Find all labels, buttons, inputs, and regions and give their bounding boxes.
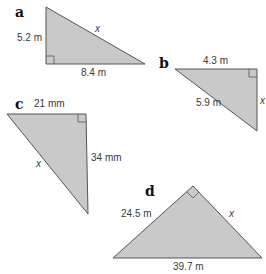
label-d-side2: 39.7 m: [173, 262, 204, 272]
label-letter-d: d: [145, 184, 155, 198]
label-b-side2: 5.9 m: [196, 98, 221, 108]
label-letter-b: b: [159, 56, 169, 70]
triangle-c: [7, 114, 88, 214]
label-d-unknown: x: [229, 209, 234, 219]
triangle-a: [46, 7, 145, 64]
label-letter-c: c: [15, 97, 24, 111]
label-b-unknown: x: [260, 96, 265, 106]
label-a-side2: 8.4 m: [81, 68, 106, 78]
label-c-unknown: x: [36, 159, 41, 169]
label-a-side1: 5.2 m: [17, 33, 42, 43]
label-c-side2: 34 mm: [91, 153, 122, 163]
label-b-side1: 4.3 m: [203, 56, 228, 66]
triangle-d: [113, 186, 262, 258]
label-c-side1: 21 mm: [34, 99, 65, 109]
label-d-side1: 24.5 m: [121, 209, 152, 219]
label-a-unknown: x: [95, 24, 100, 34]
label-letter-a: a: [15, 5, 24, 19]
